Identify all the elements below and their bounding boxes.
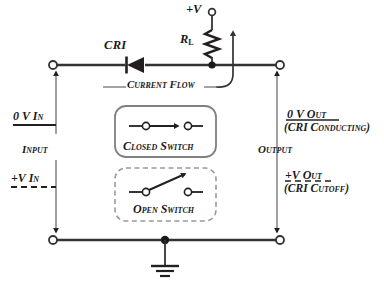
open-switch-label: Open Switch (133, 203, 194, 216)
bottom-rail-wire (57, 236, 276, 244)
supply-terminal-circle (209, 9, 216, 16)
closed-switch-label: Closed Switch (123, 140, 194, 153)
input-top-terminal (49, 61, 57, 69)
input-label: Input (22, 144, 48, 156)
diode-symbol (127, 57, 145, 74)
input-zero-v-label: 0 V In (13, 110, 43, 123)
ground-symbol (151, 240, 179, 276)
output-label: Output (258, 144, 292, 156)
current-flow-label: Current Flow (127, 79, 195, 91)
circuit-diagram-canvas: CRI +V RL Current Flow 0 V In Input +V I… (0, 0, 384, 291)
diode-label: CRI (104, 39, 126, 52)
output-top-terminal (276, 61, 284, 69)
output-bottom-terminal (276, 236, 284, 244)
output-zero-v-note: (CRI Conducting) (284, 121, 370, 133)
resistor-zigzag (205, 30, 219, 58)
resistor-subscript: L (188, 38, 193, 47)
output-plus-v-label: +V Out (285, 169, 322, 182)
output-zero-v-label: 0 V Out (287, 108, 326, 121)
supply-junction-dot (208, 61, 215, 68)
input-plus-v-label: +V In (11, 172, 39, 185)
load-resistor-label: RL (180, 33, 194, 46)
input-bottom-terminal (49, 236, 57, 244)
output-plus-v-note: (CRI Cutoff) (284, 182, 349, 194)
supply-label: +V (186, 3, 201, 16)
supply-branch (205, 9, 219, 69)
